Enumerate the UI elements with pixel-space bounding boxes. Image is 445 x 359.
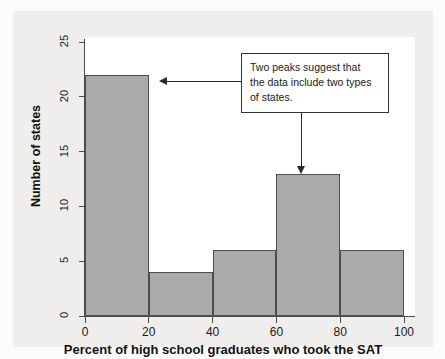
- x-axis-tick: [340, 317, 341, 323]
- histogram-bar: [85, 75, 149, 316]
- callout-arrow-down-line: [301, 113, 302, 168]
- page-margin-left: [0, 0, 13, 359]
- x-axis-tick-label: 0: [65, 325, 105, 339]
- callout-arrow-down-head-icon: [297, 166, 305, 174]
- callout-line-1: Two peaks suggest that: [250, 60, 381, 75]
- y-axis-tick-label-text: 15: [58, 140, 70, 162]
- callout-line-3: of states.: [250, 90, 381, 105]
- y-axis-title: Number of states: [29, 86, 43, 226]
- page-margin-top: [0, 0, 445, 11]
- x-axis-tick: [148, 317, 149, 323]
- two-peaks-callout: Two peaks suggest that the data include …: [241, 53, 389, 113]
- histogram-figure: Number of states 0510152025 020406080100…: [13, 11, 433, 347]
- y-axis-tick-label-text: 25: [58, 30, 70, 52]
- x-axis-tick: [212, 317, 213, 323]
- x-axis-tick-label: 100: [384, 325, 424, 339]
- x-axis-tick: [276, 317, 277, 323]
- x-axis-title: Percent of high school graduates who too…: [13, 342, 433, 357]
- y-axis-tick-label: 20: [53, 90, 75, 104]
- y-axis-tick-label: 25: [53, 35, 75, 49]
- y-axis-tick-label-text: 20: [58, 85, 70, 107]
- x-axis-tick-label: 40: [193, 325, 233, 339]
- histogram-bar: [149, 272, 213, 316]
- x-axis-tick: [404, 317, 405, 323]
- y-axis-tick-label: 15: [53, 145, 75, 159]
- x-axis-tick: [85, 317, 86, 323]
- histogram-bar: [340, 250, 404, 316]
- y-axis-tick-label-text: 0: [58, 304, 70, 326]
- y-axis-tick: [79, 42, 85, 43]
- x-axis-tick-label: 20: [129, 325, 169, 339]
- x-axis-tick-label: 60: [256, 325, 296, 339]
- page-margin-right: [433, 0, 445, 359]
- callout-arrow-left-line: [165, 81, 242, 82]
- histogram-bar: [213, 250, 277, 316]
- x-axis-line: [84, 316, 415, 317]
- callout-arrow-left-head-icon: [159, 77, 167, 85]
- callout-line-2: the data include two types: [250, 75, 381, 90]
- y-axis-tick-label-text: 5: [58, 249, 70, 271]
- y-axis-tick-label: 5: [53, 254, 75, 268]
- x-axis-tick-label: 80: [320, 325, 360, 339]
- y-axis-tick-label: 10: [53, 199, 75, 213]
- figure-page: Number of states 0510152025 020406080100…: [0, 0, 445, 359]
- y-axis-tick-label-text: 10: [58, 194, 70, 216]
- histogram-bar: [276, 174, 340, 316]
- y-axis-tick-label: 0: [53, 309, 75, 323]
